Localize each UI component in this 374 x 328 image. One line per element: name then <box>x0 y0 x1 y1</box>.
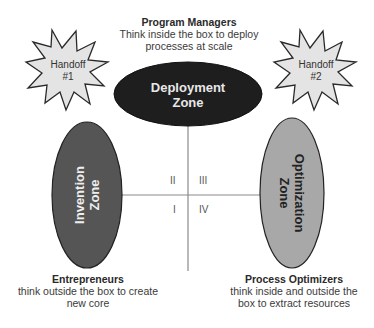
quadrant-iii-label: III <box>199 175 207 186</box>
quadrant-i-label: I <box>173 204 176 215</box>
invention-zone-label: Invention Zone <box>72 145 102 245</box>
entrepreneurs-desc-line2: new core <box>8 297 168 309</box>
handoff-2-text: Handoff <box>288 59 344 71</box>
invention-zone-line1: Invention <box>72 145 87 245</box>
program-managers-desc-line1: Think inside the box to deploy <box>104 28 274 40</box>
handoff-1-label: Handoff #1 <box>40 59 96 83</box>
optimization-zone-line1: Optimization <box>292 143 307 243</box>
invention-zone-line2: Zone <box>87 145 102 245</box>
handoff-1-number: #1 <box>40 71 96 83</box>
program-managers-label: Program Managers Think inside the box to… <box>104 16 274 52</box>
entrepreneurs-label: Entrepreneurs think outside the box to c… <box>8 273 168 309</box>
deployment-zone-label: Deployment Zone <box>128 80 248 110</box>
handoff-2-label: Handoff #2 <box>288 59 344 83</box>
process-optimizers-desc-line1: think inside and outside the <box>214 285 374 297</box>
process-optimizers-label: Process Optimizers think inside and outs… <box>214 273 374 309</box>
deployment-zone-line2: Zone <box>128 95 248 110</box>
handoff-1-text: Handoff <box>40 59 96 71</box>
optimization-zone-line2: Zone <box>277 143 292 243</box>
optimization-zone-label: Optimization Zone <box>277 143 307 243</box>
handoff-2-number: #2 <box>288 71 344 83</box>
process-optimizers-title: Process Optimizers <box>214 273 374 285</box>
process-optimizers-desc-line2: box to extract resources <box>214 297 374 309</box>
quadrant-iv-label: IV <box>199 204 208 215</box>
program-managers-desc-line2: processes at scale <box>104 40 274 52</box>
deployment-zone-line1: Deployment <box>128 80 248 95</box>
quadrant-ii-label: II <box>170 175 176 186</box>
program-managers-title: Program Managers <box>104 16 274 28</box>
entrepreneurs-desc-line1: think outside the box to create <box>8 285 168 297</box>
entrepreneurs-title: Entrepreneurs <box>8 273 168 285</box>
